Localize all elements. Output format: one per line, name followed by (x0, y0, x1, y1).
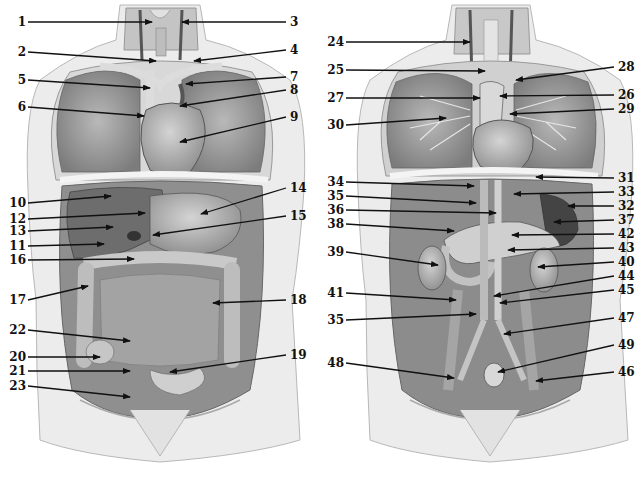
callout-label-38: 38 (318, 218, 344, 230)
callout-label-9: 9 (290, 111, 298, 123)
callout-label-46: 46 (618, 366, 635, 378)
callout-label-35: 35 (318, 190, 344, 202)
callout-label-23: 23 (0, 380, 26, 392)
callout-label-26: 26 (618, 89, 635, 101)
callout-label-28: 28 (618, 61, 635, 73)
callout-label-6: 6 (0, 101, 26, 113)
callout-label-7: 7 (290, 71, 298, 83)
callout-label-44: 44 (618, 270, 635, 282)
anatomy-diagram: 1234567891012131116141517182220211923242… (0, 0, 644, 478)
callout-label-20: 20 (0, 351, 26, 363)
right-torso-figure (357, 5, 633, 462)
callout-label-13: 13 (0, 225, 26, 237)
callout-label-2: 2 (0, 46, 26, 58)
callout-label-39: 39 (318, 246, 344, 258)
callout-label-45: 45 (618, 284, 635, 296)
callout-label-18: 18 (290, 294, 307, 306)
callout-label-48: 48 (318, 357, 344, 369)
callout-label-49: 49 (618, 339, 635, 351)
callout-label-17: 17 (0, 294, 26, 306)
callout-label-34: 34 (318, 176, 344, 188)
callout-label-37: 37 (618, 214, 635, 226)
callout-label-43: 43 (618, 242, 635, 254)
callout-label-14: 14 (290, 182, 307, 194)
callout-label-11: 11 (0, 240, 26, 252)
callout-label-42: 42 (618, 228, 635, 240)
callout-label-19: 19 (290, 349, 307, 361)
callout-label-5: 5 (0, 74, 26, 86)
callout-label-29: 29 (618, 103, 635, 115)
callout-label-25: 25 (318, 64, 344, 76)
callout-label-3: 3 (290, 16, 298, 28)
callout-label-33: 33 (618, 186, 635, 198)
callout-label-31: 31 (618, 172, 635, 184)
callout-label-1: 1 (0, 16, 26, 28)
callout-label-40: 40 (618, 256, 635, 268)
callout-label-15: 15 (290, 210, 307, 222)
callout-label-21: 21 (0, 365, 26, 377)
callout-label-35: 35 (318, 314, 344, 326)
callout-label-10: 10 (0, 197, 26, 209)
callout-label-36: 36 (318, 204, 344, 216)
callout-label-30: 30 (318, 119, 344, 131)
callout-label-4: 4 (290, 44, 298, 56)
callout-label-22: 22 (0, 324, 26, 336)
callout-label-41: 41 (318, 287, 344, 299)
callout-label-16: 16 (0, 254, 26, 266)
callout-label-47: 47 (618, 312, 635, 324)
callout-label-8: 8 (290, 84, 298, 96)
callout-label-27: 27 (318, 92, 344, 104)
callout-label-24: 24 (318, 36, 344, 48)
callout-label-32: 32 (618, 200, 635, 212)
